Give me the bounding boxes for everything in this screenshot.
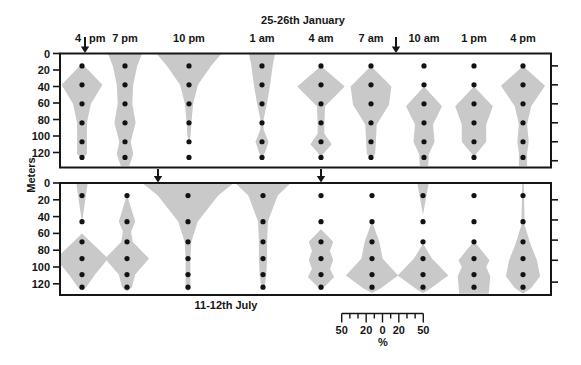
event-arrow xyxy=(317,169,325,183)
kite-shape xyxy=(76,183,87,223)
depth-dot xyxy=(420,239,425,244)
depth-dot xyxy=(369,285,374,290)
depth-dot xyxy=(368,101,373,106)
depth-dot xyxy=(79,272,84,277)
depth-dot xyxy=(369,219,374,224)
kite-shape xyxy=(406,87,442,167)
depth-dot xyxy=(79,82,84,87)
depth-dot xyxy=(186,82,191,87)
depth-dot xyxy=(369,272,374,277)
depth-dot xyxy=(369,256,374,261)
depth-dot xyxy=(421,82,426,87)
depth-dot xyxy=(520,155,525,160)
depth-dot xyxy=(79,101,84,106)
time-label: 10 am xyxy=(408,32,439,44)
depth-dot xyxy=(260,219,265,224)
bottom-panel-title: 11-12th July xyxy=(126,299,326,311)
panel-january: 0204060801001204pm7 pm10 pm1 am4 am7 am1… xyxy=(32,32,558,168)
depth-dot xyxy=(420,285,425,290)
top-panel-title: 25-26th January xyxy=(203,14,403,26)
kite-shape xyxy=(108,54,142,167)
depth-dot xyxy=(368,82,373,87)
y-tick-label: 100 xyxy=(32,261,50,273)
kite-shape xyxy=(62,63,103,159)
depth-dot xyxy=(368,63,373,68)
kite-shape xyxy=(506,183,540,294)
depth-dot xyxy=(520,101,525,106)
event-arrow xyxy=(81,37,89,53)
depth-dot xyxy=(318,63,323,68)
depth-dot xyxy=(124,285,129,290)
kite-diagram-figure: 0204060801001204pm7 pm10 pm1 am4 am7 am1… xyxy=(0,0,581,365)
depth-dot xyxy=(420,193,425,198)
depth-dot xyxy=(318,239,323,244)
depth-dot xyxy=(420,256,425,261)
depth-dot xyxy=(185,272,190,277)
depth-dot xyxy=(318,120,323,125)
depth-dot xyxy=(122,101,127,106)
depth-dot xyxy=(471,63,476,68)
depth-dot xyxy=(259,63,264,68)
depth-dot xyxy=(260,239,265,244)
percent-scale-bar: 502002050 xyxy=(336,314,430,336)
depth-dot xyxy=(520,219,525,224)
depth-dot xyxy=(318,82,323,87)
depth-dot xyxy=(520,285,525,290)
depth-dot xyxy=(318,256,323,261)
depth-dot xyxy=(124,193,129,198)
depth-dot xyxy=(79,239,84,244)
depth-dot xyxy=(124,219,129,224)
depth-dot xyxy=(185,239,190,244)
depth-dot xyxy=(471,256,476,261)
time-label: 10 pm xyxy=(173,32,205,44)
time-label: 7 am xyxy=(358,32,383,44)
depth-dot xyxy=(259,82,264,87)
depth-dot xyxy=(420,219,425,224)
depth-dot xyxy=(318,272,323,277)
depth-dot xyxy=(471,139,476,144)
y-tick-label: 20 xyxy=(38,64,50,76)
y-tick-label: 0 xyxy=(44,48,50,60)
depth-dot xyxy=(260,285,265,290)
depth-dot xyxy=(318,101,323,106)
depth-dot xyxy=(318,219,323,224)
depth-dot xyxy=(420,272,425,277)
depth-dot xyxy=(368,120,373,125)
depth-dot xyxy=(186,139,191,144)
scale-tick-label: 0 xyxy=(379,324,385,336)
scale-tick-label: 50 xyxy=(336,324,348,336)
y-tick-label: 0 xyxy=(44,177,50,189)
depth-dot xyxy=(186,101,191,106)
depth-dot xyxy=(124,239,129,244)
depth-dot xyxy=(259,120,264,125)
scale-tick-label: 20 xyxy=(360,324,372,336)
depth-dot xyxy=(471,101,476,106)
y-axis-label: Meters xyxy=(25,145,37,205)
depth-dot xyxy=(471,120,476,125)
depth-dot xyxy=(471,239,476,244)
depth-dot xyxy=(79,155,84,160)
depth-dot xyxy=(122,155,127,160)
depth-dot xyxy=(185,193,190,198)
scale-tick-label: 50 xyxy=(417,324,429,336)
depth-dot xyxy=(318,285,323,290)
depth-dot xyxy=(520,193,525,198)
depth-dot xyxy=(520,63,525,68)
percent-unit-label: % xyxy=(353,336,413,348)
depth-dot xyxy=(369,239,374,244)
depth-dot xyxy=(260,256,265,261)
scale-tick-label: 20 xyxy=(393,324,405,336)
time-label: 1 am xyxy=(249,32,274,44)
depth-dot xyxy=(186,120,191,125)
time-label: 7 pm xyxy=(112,32,138,44)
depth-dot xyxy=(471,193,476,198)
depth-dot xyxy=(471,82,476,87)
depth-dot xyxy=(79,139,84,144)
depth-dot xyxy=(79,256,84,261)
depth-dot xyxy=(368,139,373,144)
depth-dot xyxy=(520,256,525,261)
time-label: 4 xyxy=(75,32,82,44)
depth-dot xyxy=(520,272,525,277)
depth-dot xyxy=(186,155,191,160)
y-tick-label: 80 xyxy=(38,244,50,256)
